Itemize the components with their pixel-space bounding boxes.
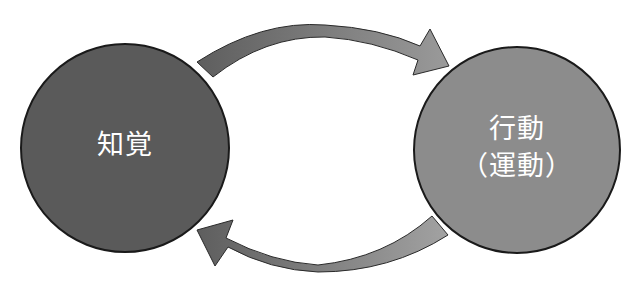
node-action-label: 行動: [452, 111, 582, 147]
node-action-sublabel: （運動）: [452, 148, 582, 184]
node-perception-label: 知覚: [60, 127, 190, 163]
arrow-action-to-perception: [197, 216, 448, 272]
arrow-perception-to-action: [197, 24, 449, 77]
